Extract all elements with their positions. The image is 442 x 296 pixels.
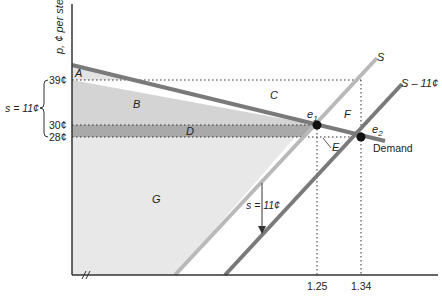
x-tick-125: 1.25 [307, 280, 328, 292]
label-g: G [152, 193, 161, 205]
e2-label: e2 [372, 123, 383, 138]
subsidy-diagram: p, ¢ per stem 39¢ 30¢ 28¢ s = 11¢ A B C … [0, 0, 442, 296]
label-c: C [270, 89, 278, 101]
label-e: E [332, 141, 340, 153]
shift-arrow-label: s = 11¢ [246, 199, 280, 211]
supply-label: S [377, 51, 385, 63]
label-f: F [344, 108, 352, 120]
demand-label: Demand [373, 142, 413, 154]
y-axis-label: p, ¢ per stem [53, 0, 65, 55]
subsidy-brace-icon [40, 80, 48, 137]
area-b [72, 80, 317, 125]
area-d [72, 125, 317, 137]
label-a: A [74, 67, 82, 79]
supply-shifted-label: S – 11¢ [401, 77, 438, 89]
area-e-leader [323, 138, 331, 148]
equilibrium-e2-dot [357, 133, 366, 142]
subsidy-brace-label: s = 11¢ [5, 102, 39, 114]
tick-30: 30¢ [49, 119, 67, 131]
x-tick-134: 1.34 [351, 280, 372, 292]
tick-28: 28¢ [49, 131, 67, 143]
tick-39: 39¢ [49, 74, 67, 86]
label-b: B [133, 98, 140, 110]
label-d: D [186, 125, 194, 137]
